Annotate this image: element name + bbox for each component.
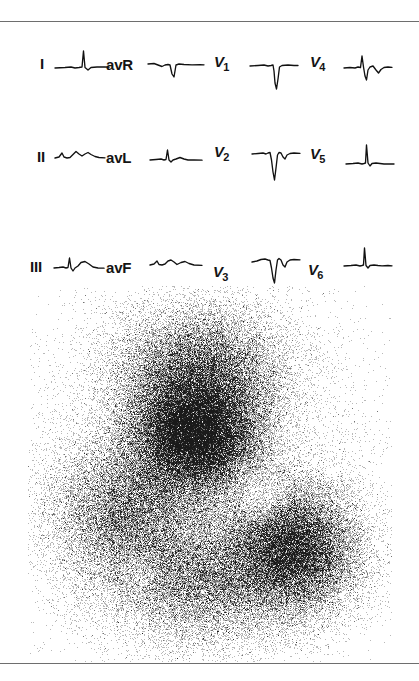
ecg-trace-I bbox=[55, 46, 109, 82]
ecg-lead-label-subscript: 6 bbox=[317, 269, 323, 281]
ecg-lead-label-text: III bbox=[30, 258, 42, 275]
ecg-trace-V1 bbox=[250, 57, 298, 95]
scintigram-image bbox=[28, 286, 392, 662]
ecg-trace-II bbox=[55, 140, 105, 172]
ecg-lead-label-avR: avR bbox=[106, 57, 133, 72]
ecg-trace-V5 bbox=[346, 140, 394, 178]
ecg-lead-label-III: III bbox=[30, 259, 42, 274]
ecg-lead-label-subscript: 2 bbox=[223, 151, 229, 163]
ecg-trace-V2 bbox=[252, 144, 300, 186]
ecg-trace-V4 bbox=[344, 52, 392, 92]
ecg-lead-label-text: avL bbox=[106, 149, 131, 166]
ecg-trace-III bbox=[54, 250, 104, 282]
ecg-lead-label-I: I bbox=[40, 56, 44, 71]
ecg-trace-avL bbox=[150, 144, 202, 174]
ecg-lead-label-subscript: 5 bbox=[319, 153, 325, 165]
ecg-trace-V6 bbox=[344, 244, 392, 280]
ecg-panel: IavRV1V4IIavLV2V5IIIavFV3V6 bbox=[0, 22, 419, 290]
ecg-lead-label-text: II bbox=[37, 148, 45, 165]
ecg-trace-avF bbox=[150, 250, 202, 278]
ecg-lead-label-V2: V2 bbox=[214, 144, 229, 163]
ecg-lead-label-subscript: 3 bbox=[222, 271, 228, 283]
ecg-lead-label-avL: avL bbox=[106, 150, 131, 165]
ecg-lead-label-V4: V4 bbox=[310, 54, 325, 73]
ecg-lead-label-V1: V1 bbox=[214, 54, 229, 73]
scintigram-panel bbox=[28, 286, 392, 662]
ecg-lead-label-text: avF bbox=[106, 259, 131, 276]
ecg-lead-label-V6: V6 bbox=[308, 262, 323, 281]
ecg-trace-V3 bbox=[252, 250, 300, 290]
ecg-lead-label-II: II bbox=[37, 149, 45, 164]
ecg-lead-label-text: I bbox=[40, 55, 44, 72]
ecg-lead-label-subscript: 4 bbox=[319, 61, 325, 73]
ecg-lead-label-text: avR bbox=[106, 56, 133, 73]
ecg-lead-label-V5: V5 bbox=[310, 146, 325, 165]
ecg-lead-label-avF: avF bbox=[106, 260, 131, 275]
ecg-lead-label-subscript: 1 bbox=[223, 61, 229, 73]
medical-figure: IavRV1V4IIavLV2V5IIIavFV3V6 bbox=[0, 0, 419, 681]
ecg-trace-avR bbox=[148, 54, 204, 86]
ecg-lead-label-V3: V3 bbox=[213, 264, 228, 283]
bottom-divider-rule bbox=[0, 663, 419, 664]
